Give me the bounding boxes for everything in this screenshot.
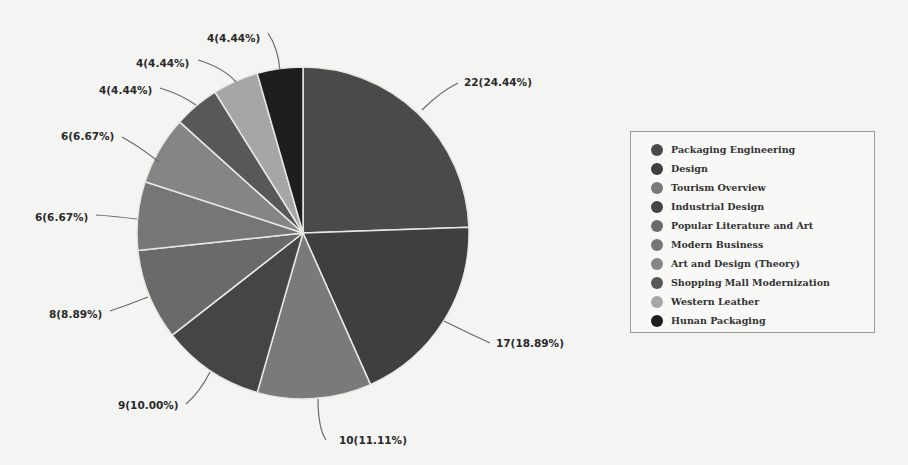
- legend-swatch-icon: [651, 239, 663, 251]
- slice-data-label: 10(11.11%): [339, 434, 407, 446]
- leader-line: [110, 297, 148, 311]
- leader-line: [422, 83, 458, 110]
- legend: Packaging Engineering Design Tourism Ove…: [630, 131, 875, 333]
- legend-label: Hunan Packaging: [671, 315, 766, 326]
- legend-swatch-icon: [651, 296, 663, 308]
- legend-label: Tourism Overview: [671, 182, 766, 193]
- leader-line: [198, 60, 236, 82]
- legend-label: Western Leather: [671, 296, 759, 307]
- leader-line: [444, 321, 490, 343]
- legend-item-shopping-mall-modernization[interactable]: Shopping Mall Modernization: [651, 273, 874, 292]
- legend-item-modern-business[interactable]: Modern Business: [651, 235, 874, 254]
- leader-line: [122, 137, 159, 162]
- slice-data-label: 8(8.89%): [49, 308, 102, 320]
- legend-label: Design: [671, 163, 708, 174]
- legend-item-popular-literature-and-art[interactable]: Popular Literature and Art: [651, 216, 874, 235]
- legend-swatch-icon: [651, 315, 663, 327]
- leader-line: [318, 399, 326, 440]
- legend-label: Shopping Mall Modernization: [671, 277, 830, 288]
- legend-item-industrial-design[interactable]: Industrial Design: [651, 197, 874, 216]
- legend-label: Industrial Design: [671, 201, 764, 212]
- leader-line: [96, 215, 137, 219]
- legend-swatch-icon: [651, 201, 663, 213]
- slice-data-label: 6(6.67%): [35, 211, 88, 223]
- legend-swatch-icon: [651, 277, 663, 289]
- slice-data-label: 22(24.44%): [464, 76, 532, 88]
- legend-swatch-icon: [651, 182, 663, 194]
- legend-item-design[interactable]: Design: [651, 159, 874, 178]
- legend-swatch-icon: [651, 163, 663, 175]
- legend-item-art-and-design-theory[interactable]: Art and Design (Theory): [651, 254, 874, 273]
- leader-line: [186, 372, 210, 404]
- pie-slices: [137, 67, 469, 399]
- legend-item-tourism-overview[interactable]: Tourism Overview: [651, 178, 874, 197]
- slice-data-label: 6(6.67%): [61, 130, 114, 142]
- legend-label: Art and Design (Theory): [671, 258, 800, 269]
- legend-label: Modern Business: [671, 239, 763, 250]
- legend-swatch-icon: [651, 258, 663, 270]
- slice-data-label: 4(4.44%): [136, 57, 189, 69]
- legend-swatch-icon: [651, 220, 663, 232]
- leader-line: [160, 88, 196, 105]
- legend-item-western-leather[interactable]: Western Leather: [651, 292, 874, 311]
- leader-line: [268, 33, 280, 70]
- slice-data-label: 4(4.44%): [207, 32, 260, 44]
- legend-item-hunan-packaging[interactable]: Hunan Packaging: [651, 311, 874, 330]
- slice-data-label: 4(4.44%): [99, 84, 152, 96]
- legend-item-packaging-engineering[interactable]: Packaging Engineering: [651, 140, 874, 159]
- legend-label: Popular Literature and Art: [671, 220, 813, 231]
- legend-swatch-icon: [651, 144, 663, 156]
- slice-data-label: 17(18.89%): [496, 337, 564, 349]
- legend-label: Packaging Engineering: [671, 144, 795, 155]
- slice-data-label: 9(10.00%): [118, 399, 179, 411]
